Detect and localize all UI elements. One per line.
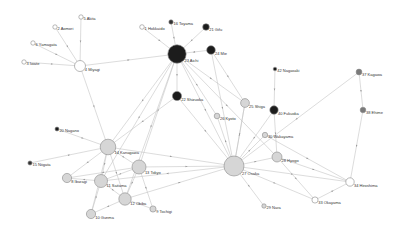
node-label-21: 21 Gifu: [209, 27, 222, 32]
arrow-icon: [274, 88, 276, 90]
node-40[interactable]: [270, 106, 278, 114]
node-label-42: 42 Nagasaki: [277, 68, 299, 73]
node-label-14: 14 Kanagawa: [114, 150, 139, 155]
node-9[interactable]: [150, 206, 156, 212]
arrow-icon: [312, 168, 314, 169]
node-label-10: 10 Gunma: [95, 215, 114, 220]
node-label-1: 1 Hokkaido: [145, 26, 166, 31]
node-1[interactable]: [140, 25, 145, 30]
arrow-icon: [96, 196, 97, 198]
arrow-icon: [185, 166, 187, 168]
node-25[interactable]: [241, 99, 250, 108]
node-26[interactable]: [214, 113, 220, 119]
node-42[interactable]: [273, 67, 277, 71]
arrow-icon: [151, 125, 153, 127]
node-23[interactable]: [168, 45, 186, 63]
arrow-icon: [138, 116, 140, 118]
node-label-22: 22 Shizuoka: [181, 97, 204, 102]
node-label-3: 3 Iwate: [27, 61, 41, 66]
node-label-20: 20 Nagano: [59, 128, 79, 133]
node-22[interactable]: [172, 91, 181, 100]
node-5[interactable]: [79, 15, 83, 19]
node-label-12: 12 Chiba: [130, 201, 147, 206]
arrow-icon: [107, 205, 109, 207]
arrow-icon: [93, 105, 95, 107]
edge-layer: [24, 17, 363, 214]
arrow-icon: [204, 109, 206, 111]
arrow-icon: [306, 157, 308, 159]
node-label-13: 13 Tokyo: [145, 170, 162, 175]
arrow-icon: [80, 40, 82, 42]
node-label-2: 2 Aomori: [58, 26, 74, 31]
node-13[interactable]: [132, 160, 146, 174]
node-label-15: 15 Niigata: [32, 162, 51, 167]
node-label-5: 5 Akita: [84, 16, 97, 21]
node-20[interactable]: [55, 127, 59, 131]
node-34[interactable]: [346, 178, 354, 186]
node-12[interactable]: [119, 193, 131, 205]
arrow-icon: [145, 187, 146, 189]
node-label-11: 11 Saitama: [107, 183, 128, 188]
node-38[interactable]: [360, 107, 366, 113]
node-8[interactable]: [62, 173, 71, 182]
node-label-9: 9 Tochigi: [156, 209, 172, 214]
node-label-6: 6 Yamagata: [36, 42, 58, 47]
node-label-23: 23 Aichi: [184, 58, 198, 63]
arrow-icon: [225, 140, 226, 142]
arrow-icon: [131, 182, 133, 184]
node-label-28: 28 Hyogo: [282, 158, 300, 163]
node-15[interactable]: [28, 161, 32, 165]
node-3[interactable]: [22, 60, 26, 64]
node-label-37: 37 Kagawa: [362, 72, 383, 77]
node-label-30: 30 Wakayama: [268, 134, 294, 139]
arrow-icon: [81, 137, 83, 139]
node-27[interactable]: [224, 156, 244, 176]
node-label-4: 4 Miyagi: [85, 67, 100, 72]
node-label-40: 40 Fukuoka: [278, 111, 300, 116]
node-33[interactable]: [312, 197, 318, 203]
network-graph: 1 Hokkaido2 Aomori3 Iwate4 Miyagi5 Akita…: [0, 0, 404, 229]
node-label-26: 26 Kyoto: [220, 116, 237, 121]
node-label-27: 27 Osaka: [242, 171, 260, 176]
node-6[interactable]: [31, 41, 35, 45]
node-label-38: 38 Ehime: [366, 110, 384, 115]
node-28[interactable]: [272, 152, 282, 162]
node-30[interactable]: [262, 132, 267, 137]
node-14[interactable]: [100, 139, 116, 155]
node-label-8: 8 Ibaragi: [71, 179, 87, 184]
node-10[interactable]: [86, 209, 95, 218]
arrow-icon: [119, 173, 121, 175]
node-29[interactable]: [262, 204, 266, 208]
arrow-icon: [55, 53, 57, 55]
node-24[interactable]: [207, 46, 216, 55]
node-label-34: 34 Hiroshima: [354, 183, 378, 188]
node-16[interactable]: [169, 20, 173, 24]
arrow-icon: [115, 172, 116, 174]
node-label-29: 29 Nara: [267, 205, 282, 210]
arrow-icon: [331, 190, 333, 192]
node-label-33: 33 Okayama: [318, 200, 341, 205]
node-4[interactable]: [75, 61, 86, 72]
node-37[interactable]: [356, 69, 362, 75]
arrow-icon: [273, 182, 275, 184]
node-label-16: 16 Toyama: [174, 21, 194, 26]
node-21[interactable]: [203, 24, 210, 31]
arrow-icon: [176, 74, 178, 76]
arrow-icon: [178, 182, 180, 183]
node-2[interactable]: [53, 25, 57, 29]
node-label-24: 24 Mie: [215, 51, 228, 56]
node-11[interactable]: [95, 175, 108, 188]
node-label-25: 25 Shiga: [249, 104, 266, 109]
